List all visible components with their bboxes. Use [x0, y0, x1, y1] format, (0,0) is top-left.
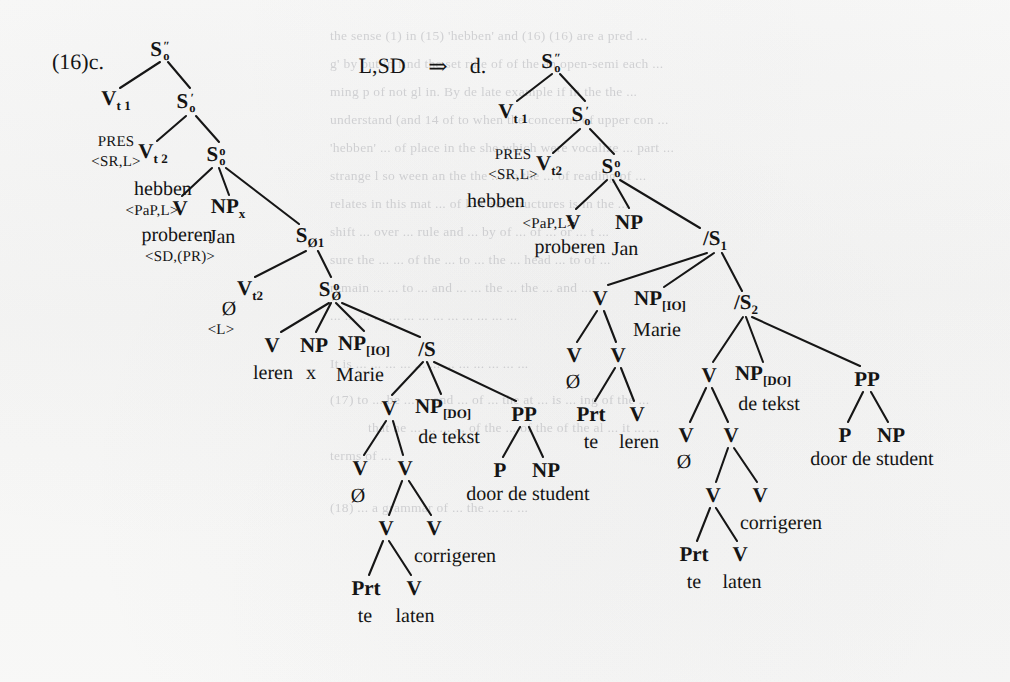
bleed-through-line: the sense (1) in (15) 'hebben' and (16) …	[330, 28, 990, 44]
tree-node-l-V7: V	[426, 518, 441, 539]
scanned-page: the sense (1) in (15) 'hebben' and (16) …	[0, 0, 1010, 682]
tree-word-r-w-leren: leren	[619, 432, 659, 452]
tree-branch	[734, 448, 757, 482]
tree-node-l-NPdo: NP[DO]	[415, 396, 471, 419]
tree-node-r-Prt1: Prt	[576, 404, 605, 425]
tree-node-l-NPpp: NP	[532, 460, 560, 481]
tree-node-l-PP: PP	[511, 404, 537, 425]
tree-branch	[752, 317, 860, 366]
tree-feature-r-f-pres: PRES	[495, 148, 532, 163]
tree-node-r-PP: PP	[854, 369, 880, 390]
tree-word-r-w-doordestudent: door de student	[810, 449, 933, 469]
tree-node-r-Ss2: /S2	[734, 292, 758, 315]
tree-branch	[157, 116, 186, 141]
tree-node-r-V10: V	[752, 485, 767, 506]
tree-word-r-w-laten: laten	[723, 572, 762, 592]
bleed-through-line: strange l so ween an the the ... so the …	[330, 168, 985, 184]
bleed-through-line: shift ... over ... rule and ... by of ..…	[330, 224, 978, 240]
tree-node-r-P: P	[839, 425, 852, 446]
tree-branch	[281, 303, 329, 332]
tree-feature-l-f-srl: <SR,L>	[91, 155, 140, 170]
tree-branch	[168, 62, 190, 88]
tree-node-r-V4: V	[610, 345, 625, 366]
tree-node-l-S3: /S	[418, 339, 436, 360]
tree-node-l-S0: Soo	[207, 144, 226, 167]
tree-node-l-Vt2b: Vt2	[237, 278, 263, 301]
tree-word-r-w-corrigeren: corrigeren	[740, 513, 822, 533]
tree-node-r-V7: V	[678, 425, 693, 446]
tree-node-l-V5: V	[397, 458, 412, 479]
tree-node-l-S0b: SoØ	[319, 279, 341, 302]
tree-branch	[120, 62, 160, 88]
tree-node-l-Prt: Prt	[351, 578, 380, 599]
bleed-through-line: sure the ... ... of the ... to ... the .…	[330, 252, 966, 268]
bleed-through-line: ming p of not gl in. By de late example …	[330, 84, 970, 100]
bleed-through-line: understand (and 14 of to when the concer…	[330, 112, 980, 128]
tree-word-l-w-proberen: proberen	[141, 225, 212, 245]
tree-word-l-w-doordestudent: door de student	[466, 484, 589, 504]
derivation-arrow: ⇒	[428, 55, 447, 78]
tree-node-r-NPJan: NP	[615, 212, 643, 233]
tree-branch	[219, 168, 229, 195]
tree-branch	[389, 541, 411, 575]
tree-word-r-w-Jan: Jan	[612, 239, 639, 259]
tree-node-r-V6: V	[629, 404, 644, 425]
tree-node-r-Vt2: Vt2	[536, 153, 562, 176]
tree-node-l-Vt1: Vt 1	[101, 88, 130, 111]
tree-word-r-w-Marie: Marie	[633, 320, 681, 340]
tree-word-l-w-Jan: Jan	[209, 227, 236, 247]
tree-word-l-w-Marie: Marie	[336, 365, 384, 385]
tree-branch	[196, 116, 219, 142]
tree-word-l-w-leren: leren	[253, 363, 293, 383]
tree-word-l-w-hebben: hebben	[134, 179, 192, 199]
tree-word-r-w-proberen: proberen	[534, 237, 605, 257]
bleed-through-line: relates in this mat ... of low set struc…	[330, 196, 970, 212]
tree-node-r-Ss1: /S1	[703, 228, 727, 251]
tree-node-r-V11: V	[732, 544, 747, 565]
tree-node-r-V8: V	[723, 425, 738, 446]
tree-word-r-w-te1: te	[584, 432, 598, 452]
tree-word-r-w-hebben: hebben	[467, 191, 525, 211]
tree-node-r-Prt2: Prt	[679, 544, 708, 565]
tree-node-l-V6: V	[378, 518, 393, 539]
tree-word-l-w-laten: laten	[396, 606, 435, 626]
tree-node-l-NPio: NP[IO]	[338, 333, 390, 356]
tree-word-l-w-te: te	[358, 606, 372, 626]
tree-node-l-P: P	[494, 460, 507, 481]
tree-feature-r-f-papl: <PaP,L>	[523, 217, 576, 232]
tree-branch	[316, 303, 331, 332]
tree-node-r-S1: S′o	[572, 104, 591, 127]
tree-node-r-V9: V	[705, 485, 720, 506]
bleed-through-line: 'hebben' ... of place in the she which w…	[330, 140, 975, 156]
tree-node-r-NPio: NP[IO]	[634, 288, 686, 311]
tree-branch	[716, 448, 728, 482]
tree-node-l-NPx2: NP	[300, 335, 328, 356]
tree-word-r-w-empty1: Ø	[566, 372, 580, 392]
tree-word-l-w-detekst: de tekst	[418, 427, 480, 447]
tree-node-r-V5: V	[701, 365, 716, 386]
tree-word-l-w-x: x	[306, 363, 316, 383]
tree-branch	[369, 541, 383, 575]
tree-node-l-V3: V	[381, 398, 396, 419]
tree-feature-r-f-srl: <SR,L>	[488, 168, 537, 183]
tree-node-r-NPdo: NP[DO]	[735, 363, 791, 386]
tree-feature-l-f-sdpr: <SD,(PR)>	[145, 250, 215, 265]
tree-word-r-w-detekst: de tekst	[738, 394, 800, 414]
tree-node-r-Vt1: Vt 1	[498, 101, 527, 124]
tree-feature-l-f-L: <L>	[208, 323, 235, 338]
tree-node-l-S1: S′o	[177, 91, 196, 114]
tree-word-r-w-te2: te	[687, 572, 701, 592]
tree-word-l-w-corrigeren: corrigeren	[414, 546, 496, 566]
tree-node-r-V2: V	[592, 288, 607, 309]
tree-feature-l-f-papl: <PaP,L>	[126, 204, 179, 219]
tree-node-r-S0: Soo	[602, 156, 621, 179]
tree-node-l-NPJan: NPx	[211, 196, 246, 219]
tree-node-r-NPpp: NP	[877, 425, 905, 446]
tree-node-l-V4: V	[352, 458, 367, 479]
tree-branch	[255, 251, 306, 277]
example-number: (16)c.	[52, 51, 104, 73]
tree-node-l-Sp1: SØ1	[296, 225, 324, 248]
tree-word-l-w-empty2: Ø	[351, 486, 365, 506]
tree-word-r-w-empty2: Ø	[677, 452, 691, 472]
tree-node-l-S2: S″o	[150, 39, 170, 62]
